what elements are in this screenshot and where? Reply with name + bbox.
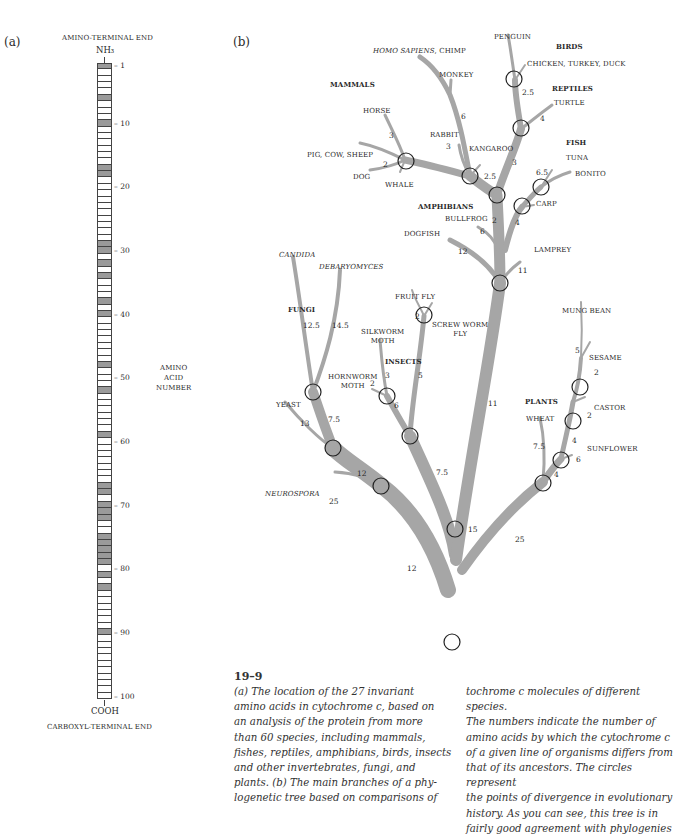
distance-mammal-stem: 3 [512, 158, 517, 167]
species-homo-chimp: HOMO SAPIENS, CHIMP [373, 47, 466, 55]
species-chimp: , CHIMP [435, 47, 466, 55]
caption-column-1: (a) The location of the 27 invariant ami… [234, 684, 459, 806]
distance-candida: 12.5 [303, 321, 320, 330]
distance-yeast: 13 [300, 419, 310, 428]
species-kangaroo: KANGAROO [469, 145, 513, 153]
monkey-branch [450, 80, 451, 95]
species-whale: WHALE [385, 181, 414, 189]
distance-fungi-base: 12 [407, 564, 417, 573]
species-fruitfly: FRUIT FLY [395, 293, 435, 301]
distance-insect-stem: 6 [394, 401, 399, 410]
caption-line: fairly good agreement with phylogenies [466, 821, 675, 836]
species-dogfish: DOGFISH [404, 230, 440, 238]
species-lamprey: LAMPREY [534, 246, 571, 254]
distance-bullfrog: 6 [480, 227, 485, 236]
distance-insect-base: 7.5 [436, 468, 448, 477]
distance-fungi-stem: 7.5 [328, 415, 340, 424]
distance-tuna: 6.5 [536, 168, 548, 177]
distance-monkey: 6 [461, 112, 466, 121]
screwworm-branch [424, 303, 432, 316]
group-insects: INSECTS [385, 357, 422, 366]
distance-silkworm: 3 [385, 371, 390, 380]
species-debaryomyces: DEBARYOMYCES [319, 263, 383, 271]
species-bonito: BONITO [575, 170, 606, 178]
distance-debaryomyces: 14.5 [332, 321, 349, 330]
species-horse: HORSE [363, 107, 391, 115]
distance-mungbean: 5 [575, 346, 580, 355]
species-dog: DOG [353, 173, 370, 181]
placental-branch [405, 160, 470, 176]
distance-vert-stem: 11 [488, 399, 498, 408]
distance-wheat: 7.5 [533, 442, 545, 451]
species-pig: PIG, COW, SHEEP [307, 151, 373, 159]
distance-plant-base: 25 [515, 535, 525, 544]
group-fungi: FUNGI [288, 305, 315, 314]
group-birds: BIRDS [556, 42, 583, 51]
caption-line: of a given line of organisms differs fro… [466, 745, 675, 760]
caption-line: tochrome c molecules of different specie… [466, 684, 675, 714]
distance-castor: 2 [587, 411, 592, 420]
caption-line: than 60 species, including mammals, [234, 730, 459, 745]
distance-carp: 4 [515, 218, 520, 227]
group-fish: FISH [566, 138, 586, 147]
species-tuna: TUNA [566, 154, 588, 162]
species-carp: CARP [536, 200, 557, 208]
species-homo: HOMO SAPIENS [373, 47, 435, 55]
species-yeast: YEAST [276, 401, 301, 409]
vertebrate-upper [497, 195, 500, 283]
distance-sesame: 2 [594, 368, 599, 377]
distance-fruitfly: 2 [415, 312, 420, 321]
castor-stem [561, 402, 573, 459]
species-mungbean: MUNG BEAN [562, 307, 611, 315]
species-turtle: TURTLE [554, 99, 585, 107]
group-plants: PLANTS [525, 397, 558, 406]
caption-line: fishes, reptiles, amphibians, birds, ins… [234, 745, 459, 760]
turtle-branch [521, 105, 552, 129]
caption-line: the points of divergence in evolutionary [466, 790, 675, 805]
species-wheat: WHEAT [526, 415, 554, 423]
species-bullfrog: BULLFROG [445, 215, 488, 223]
caption-line: logenetic tree based on comparisons of [234, 790, 459, 805]
caption-line: The numbers indicate the number of [466, 714, 675, 729]
species-rabbit: RABBIT [430, 131, 459, 139]
caption-line: amino acids in cytochrome c, based on [234, 699, 459, 714]
species-screwworm-line: SCREW WORM [432, 321, 488, 330]
distance-pig: 2 [383, 160, 388, 169]
bird-reptile-branch [497, 129, 521, 195]
distance-fungi-lower: 12 [357, 469, 367, 478]
distance-chicken: 2.5 [522, 88, 534, 97]
species-castor: CASTOR [594, 404, 626, 412]
species-sunflower: SUNFLOWER [587, 445, 638, 453]
group-amphibians: AMPHIBIANS [418, 202, 473, 211]
species-silkworm-line: MOTH [361, 337, 404, 346]
caption-line: amino acids by which the cytochrome c [466, 730, 675, 745]
caption-line: an analysis of the protein from more [234, 714, 459, 729]
species-sesame: SESAME [589, 354, 622, 362]
distance-dogfish: 12 [458, 247, 468, 256]
species-chicken: CHICKEN, TURKEY, DUCK [527, 60, 626, 68]
figure-number: 19–9 [234, 670, 262, 683]
distance-neurospora: 25 [329, 497, 339, 506]
species-monkey: MONKEY [439, 71, 474, 79]
caption-line: plants. (b) The main branches of a phy- [234, 775, 459, 790]
species-screwworm: SCREW WORMFLY [432, 321, 488, 339]
distance-hornworm: 2 [370, 379, 375, 388]
distance-turtle: 4 [540, 114, 545, 123]
caption-column-2: tochrome c molecules of different specie… [466, 684, 675, 836]
species-silkworm-line: SILKWORM [361, 328, 404, 337]
group-reptiles: REPTILES [552, 84, 593, 93]
caption-line: and other invertebrates, fungi, and [234, 760, 459, 775]
caption-line: that of its ancestors. The circles repre… [466, 760, 675, 790]
distance-kangaroo: 2.5 [484, 172, 496, 181]
caption-line: history. As you can see, this tree is in [466, 806, 675, 821]
distance-lamprey: 11 [518, 266, 528, 275]
chicken-branch [515, 65, 525, 80]
distance-screwworm: 5 [418, 371, 423, 380]
species-candida: CANDIDA [279, 251, 315, 259]
distance-sunflower-stem: 4 [554, 470, 559, 479]
species-silkworm: SILKWORMMOTH [361, 328, 404, 346]
species-screwworm-line: FLY [432, 330, 488, 339]
distance-castor-stem: 4 [572, 436, 577, 445]
distance-animal-base: 15 [468, 525, 478, 534]
distance-amph-stem: 2 [492, 216, 497, 225]
